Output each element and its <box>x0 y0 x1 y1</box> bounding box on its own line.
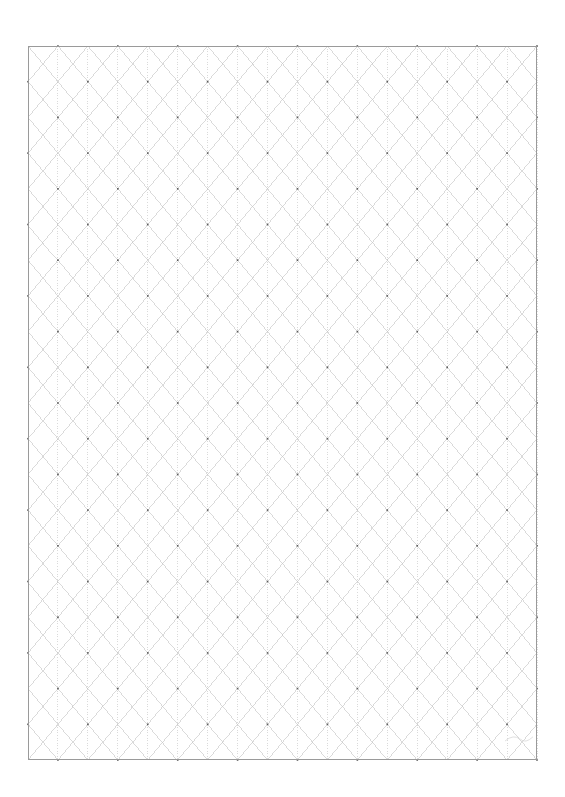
grid-node <box>267 652 269 654</box>
grid-node <box>357 259 359 261</box>
grid-node <box>117 259 119 261</box>
grid-node <box>207 152 209 154</box>
grid-node <box>506 152 508 154</box>
grid-node <box>267 367 269 369</box>
grid-node <box>357 331 359 333</box>
grid-node <box>267 438 269 440</box>
grid-node <box>237 545 239 547</box>
grid-node <box>297 331 299 333</box>
grid-node <box>207 724 209 726</box>
grid-node <box>327 367 329 369</box>
grid-node <box>87 652 89 654</box>
grid-node <box>57 688 59 690</box>
grid-node <box>446 224 448 226</box>
grid-node <box>237 402 239 404</box>
grid-node <box>147 724 149 726</box>
grid-node <box>147 509 149 511</box>
grid-node <box>117 474 119 476</box>
grid-node <box>476 402 478 404</box>
grid-node <box>207 509 209 511</box>
grid-node <box>267 152 269 154</box>
grid-node <box>506 438 508 440</box>
grid-node <box>416 616 418 618</box>
grid-node <box>117 402 119 404</box>
grid-node <box>267 581 269 583</box>
grid-node <box>57 616 59 618</box>
grid-node <box>386 724 388 726</box>
grid-node <box>147 581 149 583</box>
isometric-grid-svg <box>0 0 565 797</box>
grid-node <box>416 331 418 333</box>
grid-node <box>57 402 59 404</box>
grid-node <box>117 545 119 547</box>
grid-node <box>207 652 209 654</box>
grid-node <box>297 117 299 119</box>
grid-node <box>117 616 119 618</box>
grid-node <box>476 331 478 333</box>
page-background <box>0 0 565 797</box>
grid-node <box>177 616 179 618</box>
grid-node <box>446 724 448 726</box>
grid-node <box>506 509 508 511</box>
grid-node <box>237 688 239 690</box>
grid-node <box>177 688 179 690</box>
grid-node <box>207 438 209 440</box>
grid-node <box>147 152 149 154</box>
grid-node <box>506 652 508 654</box>
grid-node <box>327 652 329 654</box>
grid-node <box>416 402 418 404</box>
grid-node <box>506 724 508 726</box>
grid-node <box>476 188 478 190</box>
grid-node <box>57 331 59 333</box>
grid-node <box>57 545 59 547</box>
grid-node <box>177 545 179 547</box>
grid-node <box>207 295 209 297</box>
grid-node <box>207 224 209 226</box>
grid-node <box>446 367 448 369</box>
grid-node <box>87 438 89 440</box>
grid-node <box>237 188 239 190</box>
grid-node <box>147 438 149 440</box>
grid-node <box>476 545 478 547</box>
grid-node <box>237 474 239 476</box>
grid-node <box>147 652 149 654</box>
grid-node <box>147 224 149 226</box>
grid-node <box>87 581 89 583</box>
grid-node <box>386 509 388 511</box>
grid-node <box>357 188 359 190</box>
grid-node <box>57 259 59 261</box>
grid-node <box>416 188 418 190</box>
grid-node <box>177 474 179 476</box>
grid-node <box>177 117 179 119</box>
grid-node <box>386 652 388 654</box>
grid-node <box>237 117 239 119</box>
grid-node <box>446 652 448 654</box>
grid-node <box>506 224 508 226</box>
grid-node <box>117 331 119 333</box>
grid-node <box>177 188 179 190</box>
grid-node <box>87 724 89 726</box>
grid-node <box>147 295 149 297</box>
grid-node <box>327 438 329 440</box>
grid-node <box>386 224 388 226</box>
grid-node <box>446 152 448 154</box>
grid-node <box>237 616 239 618</box>
grid-node <box>297 616 299 618</box>
grid-node <box>297 545 299 547</box>
grid-node <box>476 688 478 690</box>
grid-node <box>267 509 269 511</box>
grid-node <box>327 295 329 297</box>
grid-node <box>416 117 418 119</box>
grid-node <box>237 331 239 333</box>
grid-node <box>177 402 179 404</box>
grid-node <box>207 581 209 583</box>
grid-node <box>506 367 508 369</box>
grid-node <box>87 367 89 369</box>
grid-node <box>297 474 299 476</box>
grid-node <box>267 295 269 297</box>
grid-node <box>57 117 59 119</box>
grid-node <box>297 688 299 690</box>
grid-node <box>357 474 359 476</box>
grid-node <box>506 581 508 583</box>
grid-node <box>297 259 299 261</box>
